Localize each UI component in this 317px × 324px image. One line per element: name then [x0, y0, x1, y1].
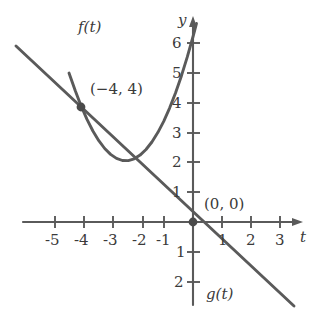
- curve-label-g: g(t): [206, 287, 233, 302]
- y-tick-label-neg2: 2: [174, 275, 184, 290]
- y-tick-label-6: 6: [172, 36, 182, 51]
- point-label-minus4-4: (−4, 4): [90, 82, 143, 97]
- y-axis-label: y: [178, 13, 186, 28]
- y-tick-label-3: 3: [172, 126, 182, 141]
- y-tick-label-5: 5: [172, 66, 182, 81]
- graph-canvas: [0, 0, 317, 324]
- x-tick-label-1: 1: [218, 233, 228, 248]
- y-tick-label-neg1: 1: [176, 245, 186, 260]
- x-tick-label-3: 3: [275, 233, 285, 248]
- y-tick-label-4: 4: [172, 96, 182, 111]
- line-curve-g: [16, 46, 294, 306]
- x-tick-label-neg2: -2: [132, 233, 147, 248]
- y-tick-label-2: 2: [172, 155, 182, 170]
- x-axis: [23, 218, 303, 226]
- x-tick-label-neg1: -1: [156, 233, 171, 248]
- curve-label-f: f(t): [78, 20, 101, 35]
- point-label-origin: (0, 0): [204, 197, 244, 212]
- x-axis-label: t: [300, 230, 306, 245]
- point-marker-minus4-4: [77, 103, 86, 112]
- x-tick-label-neg3: -3: [103, 233, 118, 248]
- graph-figure: f(t) g(t) y t (−4, 4) (0, 0) -5 -4 -3 -2…: [0, 0, 317, 324]
- y-axis: [189, 16, 197, 305]
- x-tick-label-neg4: -4: [74, 233, 89, 248]
- x-tick-label-2: 2: [246, 233, 256, 248]
- y-tick-label-1: 1: [172, 185, 182, 200]
- point-marker-origin: [189, 218, 198, 227]
- x-tick-label-neg5: -5: [45, 233, 60, 248]
